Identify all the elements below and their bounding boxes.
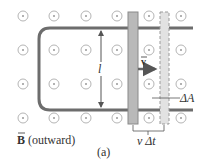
area-label: ΔA — [179, 91, 195, 105]
figure-caption: (a) — [97, 145, 110, 159]
bar-later-position — [160, 12, 169, 124]
moving-bar — [128, 12, 138, 124]
field-label-text: (outward) — [28, 133, 75, 147]
velocity-label: v — [141, 56, 146, 67]
displacement-label: v Δt — [137, 134, 156, 148]
field-label-symbol: B — [17, 133, 25, 147]
moving-bar-diagram: l v ΔA v Δt B (outward) (a) — [0, 0, 208, 161]
